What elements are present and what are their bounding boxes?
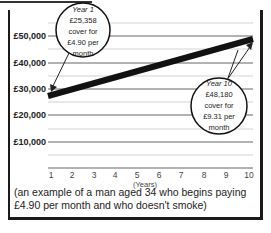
svg-text:£9.31 per: £9.31 per xyxy=(203,112,235,121)
svg-text:cover for: cover for xyxy=(68,27,98,36)
y-label: £40,000 xyxy=(13,58,46,68)
svg-text:7: 7 xyxy=(179,170,184,180)
svg-text:10: 10 xyxy=(244,170,254,180)
svg-text:1: 1 xyxy=(49,170,54,180)
svg-text:£48,180: £48,180 xyxy=(205,90,232,99)
svg-text:Year 1: Year 1 xyxy=(72,5,94,14)
y-label: £20,000 xyxy=(13,110,46,120)
x-axis-labels: 1 2 3 4 5 6 7 8 9 10 xyxy=(49,170,254,180)
y-label: £50,000 xyxy=(13,31,46,41)
svg-text:5: 5 xyxy=(135,170,140,180)
svg-text:£25,358: £25,358 xyxy=(69,16,96,25)
svg-text:cover for: cover for xyxy=(204,101,234,110)
svg-text:8: 8 xyxy=(202,170,207,180)
svg-text:Year 10: Year 10 xyxy=(206,79,233,88)
svg-text:month: month xyxy=(73,49,94,58)
svg-text:£4.90 per: £4.90 per xyxy=(67,38,99,47)
chart-caption: (an example of a man aged 34 who begins … xyxy=(14,186,264,212)
y-label: £10,000 xyxy=(13,137,46,147)
y-axis-labels: £50,000 £40,000 £30,000 £20,000 £10,000 xyxy=(13,31,46,147)
y-label: £30,000 xyxy=(13,84,46,94)
svg-text:month: month xyxy=(209,123,230,132)
svg-text:6: 6 xyxy=(157,170,162,180)
svg-text:9: 9 xyxy=(224,170,229,180)
svg-text:4: 4 xyxy=(113,170,118,180)
svg-text:3: 3 xyxy=(92,170,97,180)
svg-text:2: 2 xyxy=(70,170,75,180)
